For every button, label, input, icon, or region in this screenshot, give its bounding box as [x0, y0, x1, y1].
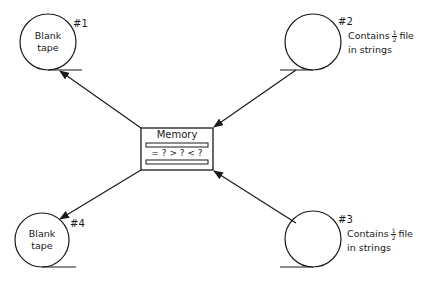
tape-2-label-line2: in strings — [348, 44, 392, 56]
tape-1-label: Blank tape — [24, 30, 72, 54]
tape-2-number: #2 — [338, 16, 353, 28]
tape-3-label: Contains12file — [347, 228, 413, 241]
one-half-fraction: 12 — [392, 30, 398, 43]
arrow-from-tape-2 — [214, 70, 296, 127]
tape-4-label: Blank tape — [18, 228, 66, 252]
arrow-to-tape-4 — [60, 170, 141, 219]
memory-comparison: = ? > ? < ? — [141, 147, 213, 159]
one-half-fraction: 12 — [391, 228, 397, 241]
tape-4-number: #4 — [70, 218, 85, 230]
tape-2-reel — [280, 14, 341, 70]
tape-1-number: #1 — [73, 18, 88, 30]
memory-title: Memory — [141, 129, 213, 141]
arrow-to-tape-1 — [60, 71, 141, 128]
arrow-from-tape-3 — [214, 171, 296, 223]
tape-3-reel — [280, 211, 341, 267]
tape-2-label: Contains12file — [348, 30, 414, 43]
tape-3-label-line2: in strings — [347, 242, 391, 254]
tape-3-number: #3 — [338, 214, 353, 226]
